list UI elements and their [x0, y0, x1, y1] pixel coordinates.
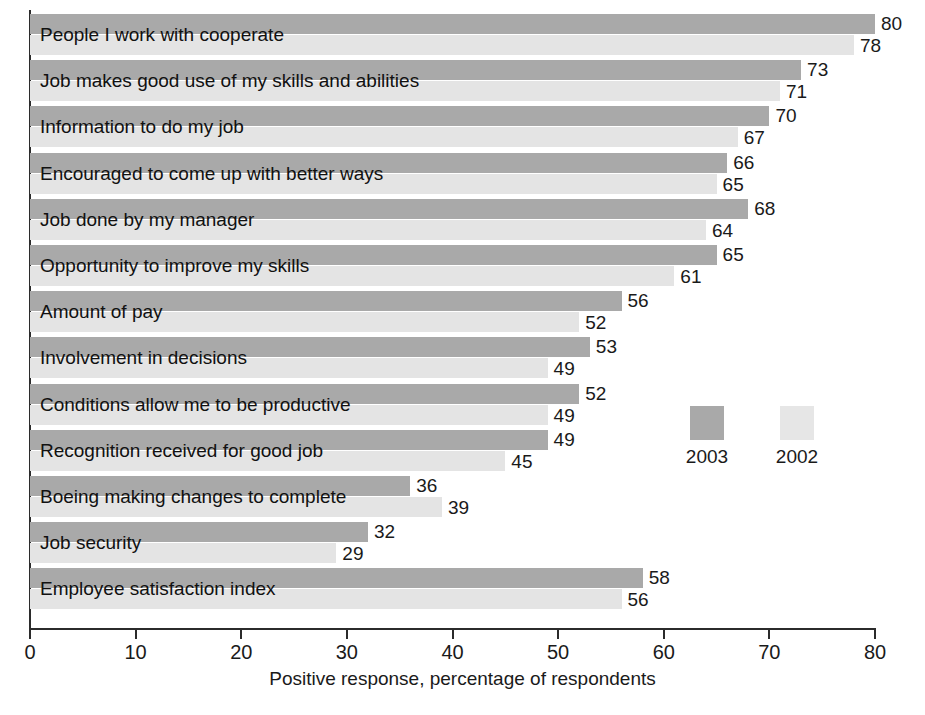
bar-value-2002: 64 [712, 221, 733, 241]
chart-row: 7067Information to do my job [0, 106, 925, 147]
x-tick [346, 630, 348, 639]
category-label: Recognition received for good job [40, 441, 323, 461]
bar-value-2002: 56 [628, 590, 649, 610]
bar-value-2002: 39 [448, 498, 469, 518]
chart-row: 5652Amount of pay [0, 291, 925, 332]
chart-row: 6561Opportunity to improve my skills [0, 245, 925, 286]
bar-value-2002: 29 [342, 544, 363, 564]
bar-value-2003: 65 [723, 245, 744, 265]
bar-value-2003: 53 [596, 337, 617, 357]
category-label: Amount of pay [40, 302, 163, 322]
chart-row: 5856Employee satisfaction index [0, 568, 925, 609]
bar-value-2003: 80 [881, 14, 902, 34]
plot-area: 8078People I work with cooperate7371Job … [0, 0, 925, 715]
bar-value-2002: 71 [786, 82, 807, 102]
legend-swatch-2002 [780, 406, 814, 440]
chart-row: 7371Job makes good use of my skills and … [0, 60, 925, 101]
bar-value-2003: 36 [416, 476, 437, 496]
bar-value-2003: 70 [775, 106, 796, 126]
bar-value-2003: 52 [585, 384, 606, 404]
bar-value-2003: 66 [733, 153, 754, 173]
bar-value-2002: 49 [554, 359, 575, 379]
category-label: Job security [40, 533, 141, 553]
x-tick [874, 630, 876, 639]
category-label: Job done by my manager [40, 210, 254, 230]
x-tick-label: 70 [758, 641, 780, 663]
x-tick [557, 630, 559, 639]
category-label: Job makes good use of my skills and abil… [40, 71, 419, 91]
chart-row: 3229Job security [0, 522, 925, 563]
x-tick [452, 630, 454, 639]
bar-value-2002: 52 [585, 313, 606, 333]
x-tick [768, 630, 770, 639]
bar-value-2002: 65 [723, 175, 744, 195]
x-tick-label: 80 [864, 641, 886, 663]
x-tick-label: 0 [24, 641, 35, 663]
bar-value-2002: 61 [680, 267, 701, 287]
category-label: Involvement in decisions [40, 348, 247, 368]
legend-label-2003: 2003 [676, 446, 738, 468]
bar-value-2003: 49 [554, 430, 575, 450]
x-tick [663, 630, 665, 639]
x-tick [135, 630, 137, 639]
bar-chart: 8078People I work with cooperate7371Job … [0, 0, 925, 715]
bar-value-2002: 67 [744, 128, 765, 148]
legend-label-2002: 2002 [766, 446, 828, 468]
x-tick-label: 30 [336, 641, 358, 663]
chart-row: 6864Job done by my manager [0, 199, 925, 240]
bar-value-2002: 78 [860, 36, 881, 56]
bar-value-2003: 32 [374, 522, 395, 542]
legend-swatch-2003 [690, 406, 724, 440]
x-tick-label: 60 [653, 641, 675, 663]
category-label: Conditions allow me to be productive [40, 395, 351, 415]
category-label: Information to do my job [40, 117, 244, 137]
chart-row: 5349Involvement in decisions [0, 337, 925, 378]
category-label: Boeing making changes to complete [40, 487, 346, 507]
category-label: People I work with cooperate [40, 25, 284, 45]
x-tick-label: 20 [230, 641, 252, 663]
x-tick-label: 40 [441, 641, 463, 663]
x-tick [29, 630, 31, 639]
bar-value-2003: 56 [628, 291, 649, 311]
bar-value-2002: 45 [511, 452, 532, 472]
chart-row: 6665Encouraged to come up with better wa… [0, 153, 925, 194]
category-label: Employee satisfaction index [40, 579, 276, 599]
bar-value-2003: 58 [649, 568, 670, 588]
x-tick-label: 50 [547, 641, 569, 663]
x-tick [240, 630, 242, 639]
bar-value-2002: 49 [554, 406, 575, 426]
x-tick-label: 10 [125, 641, 147, 663]
category-label: Encouraged to come up with better ways [40, 164, 383, 184]
x-axis-title: Positive response, percentage of respond… [0, 668, 925, 690]
legend-item-2003: 2003 [676, 406, 738, 468]
chart-row: 3639Boeing making changes to complete [0, 476, 925, 517]
bar-value-2003: 73 [807, 60, 828, 80]
category-label: Opportunity to improve my skills [40, 256, 309, 276]
chart-row: 8078People I work with cooperate [0, 14, 925, 55]
legend-item-2002: 2002 [766, 406, 828, 468]
bar-value-2003: 68 [754, 199, 775, 219]
